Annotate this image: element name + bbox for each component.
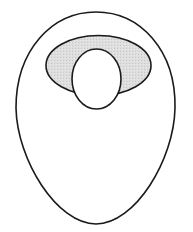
inner-oval: [72, 49, 121, 109]
diagram-canvas: [0, 0, 193, 232]
